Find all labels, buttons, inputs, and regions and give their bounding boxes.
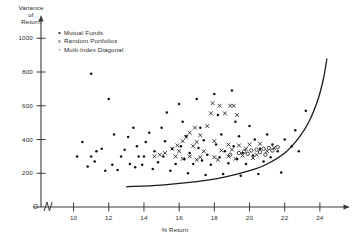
y-tick-label: 1000: [9, 34, 33, 41]
efficient-frontier-layer: [126, 59, 327, 187]
y-tick-label: 600: [9, 102, 33, 109]
series-random-portfolios: [153, 101, 276, 161]
efficient-frontier-curve: [126, 59, 327, 187]
x-tick-label: 22: [276, 214, 294, 221]
scatter-chart: VarianceofReturn % Return Mutual Funds R…: [0, 0, 354, 239]
x-tick-label: 10: [65, 214, 83, 221]
y-tick-label: 800: [9, 68, 33, 75]
plot-area: [0, 0, 354, 239]
y-tick-label: 200: [9, 169, 33, 176]
x-tick-label: 16: [170, 214, 188, 221]
x-tick-label: 12: [100, 214, 118, 221]
x-tick-label: 18: [205, 214, 223, 221]
x-tick-label: 24: [311, 214, 329, 221]
x-tick-label: 20: [241, 214, 259, 221]
y-tick-label: 400: [9, 136, 33, 143]
x-tick-label: 14: [135, 214, 153, 221]
